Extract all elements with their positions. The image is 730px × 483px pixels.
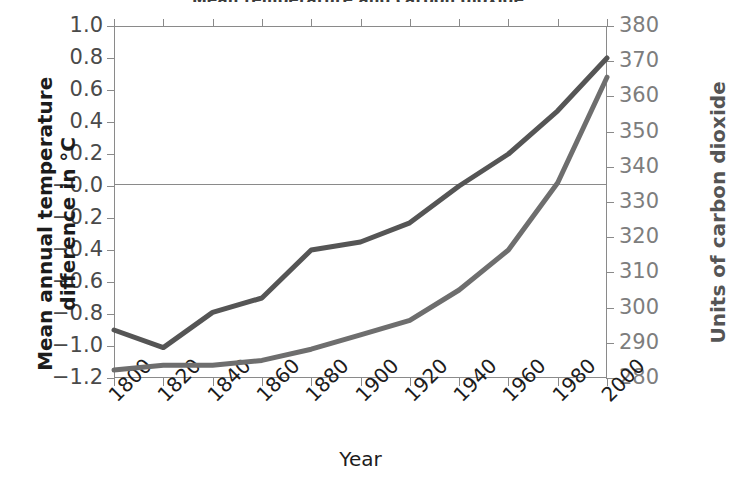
y-axis-right-tick	[606, 167, 614, 168]
x-axis-top-tick	[163, 19, 164, 27]
y-axis-right-tick-label: 330	[619, 191, 659, 212]
y-axis-right-tick-label: 310	[619, 261, 659, 282]
x-axis-top-tick	[558, 19, 559, 27]
y-axis-left-tick	[107, 218, 115, 219]
x-axis-top-tick	[262, 19, 263, 27]
y-axis-left-title-line2: difference in °C	[57, 59, 80, 389]
y-axis-right-tick-label: 320	[619, 226, 659, 247]
y-axis-right-tick	[606, 61, 614, 62]
y-axis-right-tick	[606, 96, 614, 97]
x-axis-top-tick	[114, 19, 115, 27]
x-axis-top-tick	[410, 19, 411, 27]
x-axis-top-tick	[508, 19, 509, 27]
zero-reference-line	[114, 184, 607, 185]
y-axis-right-tick-label: 290	[619, 332, 659, 353]
y-axis-left-tick	[107, 282, 115, 283]
y-axis-right-tick-label: 360	[619, 85, 659, 106]
y-axis-left-tick	[107, 154, 115, 155]
y-axis-right-tick-label: 300	[619, 297, 659, 318]
y-axis-left-tick	[107, 122, 115, 123]
y-axis-left-tick-label: 1.0	[70, 15, 103, 36]
y-axis-right-tick	[606, 272, 614, 273]
y-axis-left-tick	[107, 346, 115, 347]
plot-area	[114, 26, 607, 378]
y-axis-left-tick	[107, 90, 115, 91]
y-axis-left-tick	[107, 186, 115, 187]
y-axis-right-tick	[606, 237, 614, 238]
x-axis-title: Year	[114, 447, 607, 471]
y-axis-right-tick	[606, 132, 614, 133]
y-axis-right-tick-label: 380	[619, 15, 659, 36]
y-axis-right-tick	[606, 202, 614, 203]
y-axis-right-tick-label: 370	[619, 50, 659, 71]
y-axis-left-tick	[107, 314, 115, 315]
y-axis-right-title: Units of carbon dioxide	[707, 47, 730, 377]
y-axis-right-tick-label: 340	[619, 156, 659, 177]
y-axis-left-tick	[107, 250, 115, 251]
y-axis-left-title-line1: Mean annual temperature	[34, 59, 57, 389]
x-axis-top-tick	[607, 19, 608, 27]
y-axis-right-tick	[606, 343, 614, 344]
y-axis-right-tick-label: 350	[619, 121, 659, 142]
y-axis-left-tick	[107, 58, 115, 59]
x-axis-top-tick	[459, 19, 460, 27]
y-axis-left-title: Mean annual temperature difference in °C	[34, 59, 80, 389]
x-axis-top-tick	[311, 19, 312, 27]
x-axis-top-tick	[361, 19, 362, 27]
y-axis-right-tick	[606, 308, 614, 309]
x-axis-top-tick	[213, 19, 214, 27]
x-axis-tick-label: 1800	[105, 355, 155, 405]
chart-title-remnant: Mean temperature and carbon dioxide	[0, 0, 716, 2]
